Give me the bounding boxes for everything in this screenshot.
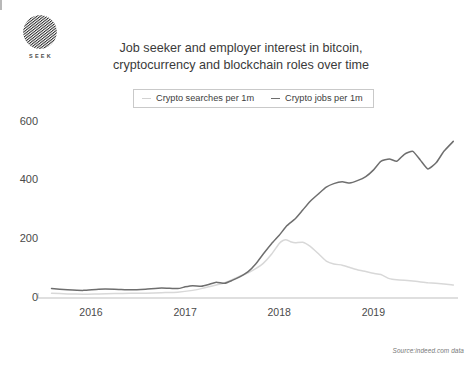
- chart-source-note: Source:indeed.com data: [393, 347, 464, 354]
- x-axis-tick-label: 2016: [61, 306, 121, 318]
- x-axis-tick-label: 2019: [343, 306, 403, 318]
- x-axis-tick-label: 2018: [249, 306, 309, 318]
- x-axis-tick-label: 2017: [155, 306, 215, 318]
- y-axis-tick-label: 0: [4, 291, 38, 303]
- y-axis-tick-label: 200: [4, 232, 38, 244]
- y-axis-tick-label: 400: [4, 173, 38, 185]
- chart-plot-area: [0, 0, 472, 376]
- chart-page: SEEK Job seeker and employer interest in…: [0, 0, 472, 376]
- chart-svg: [0, 0, 472, 376]
- series-line-jobs: [52, 141, 454, 290]
- y-axis-tick-label: 600: [4, 115, 38, 127]
